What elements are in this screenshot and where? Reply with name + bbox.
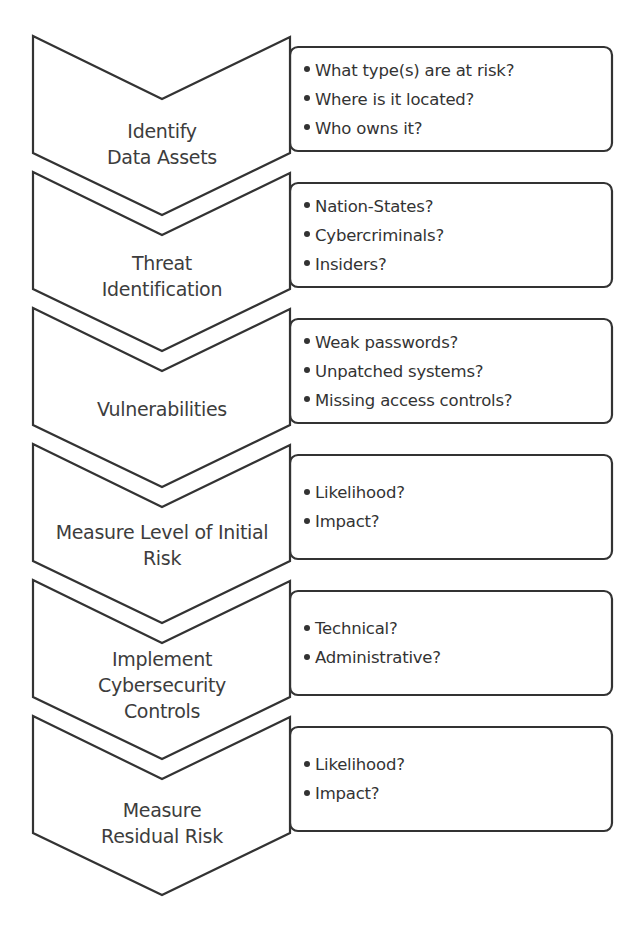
bullet-icon [304, 761, 310, 767]
bullet-item: Administrative? [304, 643, 612, 672]
bullet-item: Impact? [304, 507, 612, 536]
bullet-item: Nation-States? [304, 192, 612, 221]
bullet-item: Impact? [304, 779, 612, 808]
step-2-label-line: Identification [33, 276, 291, 302]
bullet-item: Likelihood? [304, 750, 612, 779]
bullet-item: Weak passwords? [304, 328, 612, 357]
bullet-item: What type(s) are at risk? [304, 56, 612, 85]
bullet-item: Missing access controls? [304, 386, 612, 415]
step-6-label-line: Residual Risk [33, 823, 291, 849]
bullet-icon [304, 396, 310, 402]
step-6-label: Measure Residual Risk [33, 797, 291, 849]
bullet-item: Technical? [304, 614, 612, 643]
step-2-label-line: Threat [33, 250, 291, 276]
bullet-icon [304, 124, 310, 130]
step-2-details: Nation-States? Cybercriminals? Insiders? [290, 183, 612, 287]
step-4-label-line: Risk [33, 545, 291, 571]
step-5-label-line: Implement [33, 646, 291, 672]
bullet-item: Where is it located? [304, 85, 612, 114]
bullet-icon [304, 654, 310, 660]
bullet-icon [304, 202, 310, 208]
step-4-label-line: Measure Level of Initial [33, 519, 291, 545]
bullet-icon [304, 338, 310, 344]
bullet-icon [304, 260, 310, 266]
step-2-label: Threat Identification [33, 250, 291, 302]
bullet-item: Likelihood? [304, 478, 612, 507]
bullet-item: Insiders? [304, 250, 612, 279]
step-4-label: Measure Level of Initial Risk [33, 519, 291, 571]
bullet-icon [304, 95, 310, 101]
step-1-label: Identify Data Assets [33, 118, 291, 170]
step-1-details: What type(s) are at risk? Where is it lo… [290, 47, 612, 151]
step-5-details: Technical? Administrative? [290, 591, 612, 695]
step-5-label-line: Controls [33, 698, 291, 724]
bullet-icon [304, 66, 310, 72]
step-3-label: Vulnerabilities [33, 396, 291, 422]
bullet-icon [304, 625, 310, 631]
step-3-details: Weak passwords? Unpatched systems? Missi… [290, 319, 612, 423]
step-1-label-line: Data Assets [33, 144, 291, 170]
bullet-icon [304, 231, 310, 237]
step-6-details: Likelihood? Impact? [290, 727, 612, 831]
step-6-label-line: Measure [33, 797, 291, 823]
step-5-label: Implement Cybersecurity Controls [33, 646, 291, 724]
step-4-details: Likelihood? Impact? [290, 455, 612, 559]
step-5-label-line: Cybersecurity [33, 672, 291, 698]
bullet-item: Unpatched systems? [304, 357, 612, 386]
step-1-label-line: Identify [33, 118, 291, 144]
step-3-label-line: Vulnerabilities [33, 396, 291, 422]
bullet-item: Who owns it? [304, 114, 612, 143]
bullet-icon [304, 489, 310, 495]
bullet-icon [304, 367, 310, 373]
bullet-icon [304, 790, 310, 796]
bullet-icon [304, 518, 310, 524]
bullet-item: Cybercriminals? [304, 221, 612, 250]
